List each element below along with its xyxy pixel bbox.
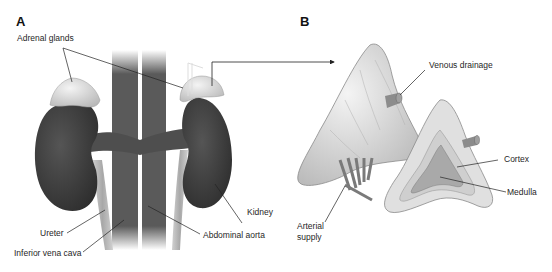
adrenal-kidney-diagram: A B Adrenal glands Kidney Ureter Abdomin…	[0, 0, 552, 272]
label-venous-drainage: Venous drainage	[429, 60, 493, 70]
label-abdominal-aorta: Abdominal aorta	[203, 230, 265, 240]
ureter-right-shape	[172, 150, 188, 250]
label-medulla: Medulla	[507, 187, 537, 197]
panel-b-artwork	[298, 44, 506, 222]
connector-arrow	[212, 62, 334, 86]
adrenal-right-shape	[180, 76, 224, 102]
label-kidney: Kidney	[247, 207, 273, 217]
cross-section-vein-end	[475, 136, 480, 145]
diagram-artwork	[0, 0, 552, 272]
label-arterial-supply-line2: supply	[297, 232, 322, 242]
label-ureter: Ureter	[40, 228, 64, 238]
adrenal-left-shape	[50, 78, 100, 107]
label-cortex: Cortex	[504, 154, 529, 164]
label-adrenal-glands: Adrenal glands	[17, 33, 74, 43]
label-arterial-supply-line1: Arterial	[297, 221, 324, 231]
panel-a-artwork	[35, 48, 334, 252]
renal-vessels-shape	[90, 128, 190, 155]
adrenal-whole-shape	[298, 44, 422, 185]
panel-a-label: A	[16, 14, 25, 29]
kidney-left-shape	[35, 102, 98, 211]
kidney-right-shape	[182, 98, 232, 208]
label-inferior-vena-cava: Inferior vena cava	[14, 248, 82, 258]
panel-b-label: B	[300, 14, 309, 29]
venous-vessel-end	[396, 93, 402, 103]
